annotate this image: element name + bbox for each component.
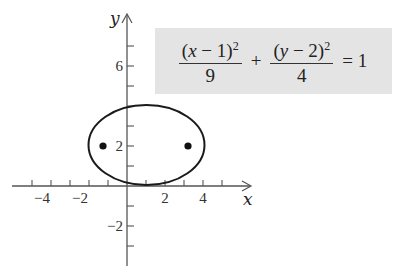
x-axis-label: x	[243, 189, 253, 209]
y-ticks	[127, 46, 134, 246]
equation-box: (x − 1)2 9 + (y − 2)2 4 = 1	[155, 28, 392, 94]
x-tick-label: 2	[161, 190, 169, 206]
x-tick-label: −4	[34, 190, 50, 206]
fraction-x-term: (x − 1)2 9	[179, 35, 242, 88]
equals-one: = 1	[342, 50, 367, 72]
x-tick-label: 4	[199, 190, 207, 206]
exponent: 2	[233, 39, 239, 53]
denominator-y: 4	[297, 64, 307, 88]
exponent: 2	[324, 39, 330, 53]
numerator-y: (y − 2)	[273, 40, 324, 61]
denominator-x: 9	[206, 64, 216, 88]
fraction-y-term: (y − 2)2 4	[270, 35, 333, 88]
y-tick-label: −2	[107, 218, 123, 234]
y-tick-label: 2	[116, 138, 124, 154]
plus-sign: +	[251, 50, 262, 72]
numerator-x: (x − 1)	[182, 40, 233, 61]
y-tick-label: 6	[116, 58, 124, 74]
focus-point-left	[99, 142, 106, 149]
y-axis-label: y	[109, 8, 120, 28]
x-tick-label: −2	[72, 190, 88, 206]
focus-point-right	[184, 142, 191, 149]
